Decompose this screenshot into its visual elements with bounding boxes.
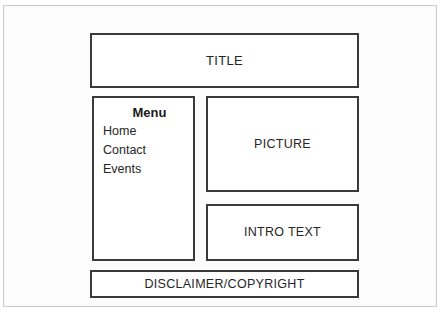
- disclaimer-block[interactable]: DISCLAIMER/COPYRIGHT: [90, 270, 359, 298]
- menu-item-contact[interactable]: Contact: [103, 141, 193, 160]
- menu-item-events[interactable]: Events: [103, 160, 193, 179]
- menu-item-home[interactable]: Home: [103, 122, 193, 141]
- intro-text-block[interactable]: INTRO TEXT: [206, 204, 359, 261]
- intro-text-block-label: INTRO TEXT: [244, 225, 321, 240]
- menu-list: Home Contact Events: [94, 122, 193, 179]
- menu-heading: Menu: [94, 105, 193, 120]
- disclaimer-block-label: DISCLAIMER/COPYRIGHT: [144, 277, 304, 292]
- menu-block[interactable]: Menu Home Contact Events: [92, 96, 195, 261]
- title-block-label: TITLE: [206, 53, 243, 69]
- picture-block-label: PICTURE: [254, 137, 311, 152]
- picture-block[interactable]: PICTURE: [206, 96, 359, 192]
- title-block[interactable]: TITLE: [90, 33, 359, 88]
- wireframe-page-frame: TITLE Menu Home Contact Events PICTURE I…: [3, 5, 437, 307]
